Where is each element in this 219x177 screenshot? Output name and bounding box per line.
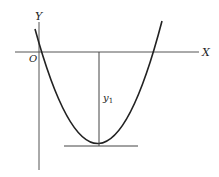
origin-label: O [29, 53, 37, 64]
x-axis-label: X [201, 46, 211, 59]
y1-label: y1 [102, 92, 113, 105]
parabola-diagram: Y X O y1 [0, 0, 219, 177]
y-axis-label: Y [35, 10, 44, 23]
y1-subscript: 1 [109, 97, 113, 105]
